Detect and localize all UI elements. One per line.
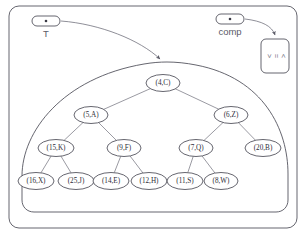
tree-node-label: (6,Z) <box>224 111 239 119</box>
tree-edge <box>104 89 151 110</box>
svg-text:=: = <box>273 54 280 58</box>
tree-node[interactable]: (14,E) <box>93 173 129 190</box>
tree-nodes: (4,C)(5,A)(6,Z)(15,K)(9,F)(7,Q)(20,B)(16… <box>18 75 281 190</box>
tree-node[interactable]: (11,S) <box>167 173 203 190</box>
tree-node-label: (4,C) <box>156 79 172 87</box>
tree-edge <box>61 156 71 173</box>
diagram-canvas: (4,C)(5,A)(6,Z)(15,K)(9,F)(7,Q)(20,B)(16… <box>0 0 306 239</box>
tree-edge <box>202 156 215 173</box>
comp-object[interactable]: < = > <box>261 39 289 73</box>
tree-node[interactable]: (8,W) <box>204 173 238 190</box>
tree-node-label: (15,K) <box>47 144 67 152</box>
tree-node-label: (11,S) <box>176 177 194 185</box>
tree-node[interactable]: (25,J) <box>58 173 94 190</box>
svg-text:>: > <box>266 54 273 58</box>
tree-node-label: (25,J) <box>68 177 85 185</box>
variable-comp-pointer-dot <box>229 18 232 21</box>
tree-node[interactable]: (7,Q) <box>179 140 213 157</box>
tree-node-label: (8,W) <box>213 177 231 185</box>
pointer-arrow-comp <box>245 19 275 35</box>
variable-comp-label: comp <box>218 26 241 37</box>
tree-node[interactable]: (15,K) <box>38 140 74 157</box>
tree-node-label: (9,F) <box>117 144 132 152</box>
tree-edge <box>204 123 223 141</box>
tree-edge <box>64 123 83 141</box>
tree-node[interactable]: (5,A) <box>74 107 108 124</box>
comp-object-text: < = > <box>266 54 287 58</box>
tree-node-label: (20,B) <box>254 144 273 152</box>
tree-node[interactable]: (6,Z) <box>214 107 248 124</box>
tree-node-label: (16,X) <box>27 177 47 185</box>
pointer-arrow-T <box>61 21 160 59</box>
tree-node[interactable]: (9,F) <box>107 140 141 157</box>
tree-edge <box>188 156 193 172</box>
tree-node-label: (7,Q) <box>188 144 204 152</box>
tree-node[interactable]: (4,C) <box>146 75 180 92</box>
tree-node-label: (12,H) <box>140 177 160 185</box>
tree-node[interactable]: (20,B) <box>245 140 281 157</box>
tree-edge <box>130 156 143 173</box>
tree-node-label: (5,A) <box>83 111 99 119</box>
tree-edge <box>175 89 218 109</box>
variable-T-label: T <box>43 28 49 39</box>
tree-node[interactable]: (16,X) <box>18 173 54 190</box>
tree-node[interactable]: (12,H) <box>131 173 167 190</box>
variable-comp[interactable]: comp <box>216 14 244 37</box>
tree-edge <box>238 123 255 141</box>
svg-text:<: < <box>280 54 287 58</box>
variable-T[interactable]: T <box>32 16 60 39</box>
outer-frame <box>9 6 297 228</box>
tree-edge <box>114 156 120 172</box>
tree-edge <box>41 156 51 173</box>
variable-T-pointer-dot <box>45 20 48 23</box>
tree-edges <box>41 89 256 173</box>
tree-edge <box>99 123 117 141</box>
tree-node-label: (14,E) <box>102 177 121 185</box>
